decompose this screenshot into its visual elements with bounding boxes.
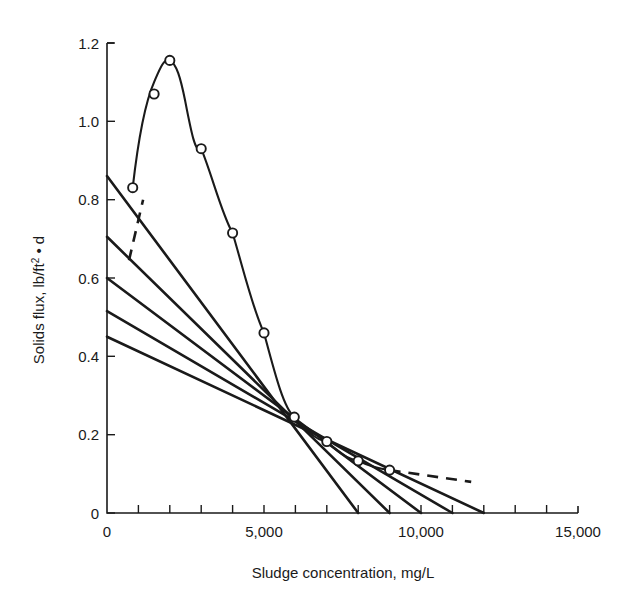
x-axis-title: Sludge concentration, mg/L: [252, 564, 435, 581]
y-tick-label: 0.2: [78, 426, 99, 443]
data-point-marker: [150, 89, 159, 98]
data-point-marker: [197, 144, 206, 153]
data-point-marker: [354, 456, 363, 465]
operating-line-4: [107, 311, 452, 513]
operating-lines-group: [107, 176, 484, 513]
axes-group: [107, 43, 578, 513]
y-axis-title-tail: • d: [30, 236, 47, 258]
y-tick-label: 1.0: [78, 113, 99, 130]
y-tick-label: 0: [91, 505, 99, 522]
x-tick-label: 5,000: [245, 523, 283, 540]
x-tick-label: 15,000: [555, 523, 601, 540]
data-point-marker: [385, 466, 394, 475]
data-point-marker: [259, 328, 268, 337]
operating-line-5: [107, 337, 484, 513]
y-tick-label: 0.4: [78, 348, 99, 365]
axis-lines: [107, 43, 578, 513]
y-tick-label: 0.8: [78, 191, 99, 208]
x-tick-label: 10,000: [398, 523, 444, 540]
y-axis-title: Solids flux, lb/ft2 • d: [30, 236, 47, 364]
data-point-marker: [128, 183, 137, 192]
data-point-marker: [228, 228, 237, 237]
y-tick-label: 0.6: [78, 270, 99, 287]
data-point-marker: [165, 56, 174, 65]
operating-line-2: [107, 237, 390, 513]
x-tick-label: 0: [103, 523, 111, 540]
data-point-marker: [322, 437, 331, 446]
flux-curve-markers: [128, 56, 394, 475]
operating-line-3: [107, 278, 421, 513]
y-axis-title-main: Solids flux, lb/ft: [30, 262, 47, 364]
y-axis-title-group: Solids flux, lb/ft2 • d: [30, 236, 47, 364]
chart-page: 0 0.2 0.4 0.6 0.8 1.0 1.2 0: [0, 0, 629, 612]
x-axis-minor-ticks: [138, 505, 546, 513]
operating-line-1: [107, 176, 358, 513]
data-point-marker: [290, 413, 299, 422]
x-axis-tick-labels: 0 5,000 10,000 15,000: [103, 523, 601, 540]
solids-flux-chart: 0 0.2 0.4 0.6 0.8 1.0 1.2 0: [0, 0, 629, 612]
dashed-extrapolations-group: [129, 200, 471, 482]
y-axis-tick-labels: 0 0.2 0.4 0.6 0.8 1.0 1.2: [78, 35, 99, 522]
y-tick-label: 1.2: [78, 35, 99, 52]
